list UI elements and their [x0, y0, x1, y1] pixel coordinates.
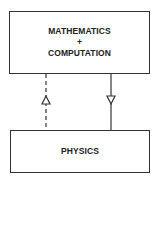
dashed-arrow-up: [42, 74, 50, 130]
solid-arrow-down: [107, 74, 115, 130]
physics-label: PHYSICS: [61, 146, 99, 157]
physics-box: PHYSICS: [10, 130, 150, 173]
down-triangle-icon: [107, 96, 115, 104]
up-triangle-icon: [42, 96, 50, 104]
